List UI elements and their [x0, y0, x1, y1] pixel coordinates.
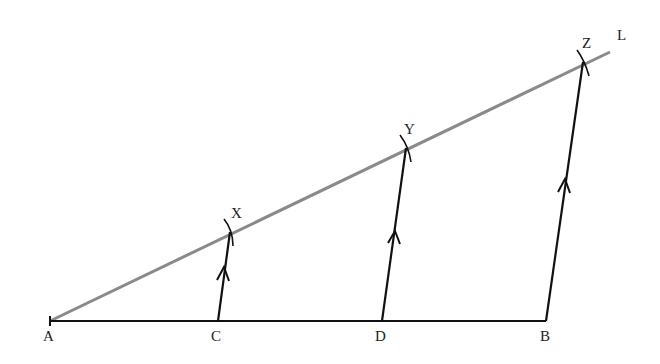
- label-b: B: [540, 328, 550, 344]
- label-c: C: [211, 328, 221, 344]
- ray-al: [50, 52, 610, 321]
- construction-diagram: A C D B X Y Z L: [0, 0, 660, 364]
- segment-bz: [546, 62, 583, 321]
- label-z: Z: [582, 35, 591, 51]
- label-d: D: [375, 328, 386, 344]
- label-l: L: [617, 27, 626, 43]
- label-y: Y: [404, 121, 415, 137]
- label-a: A: [43, 328, 54, 344]
- label-x: X: [231, 205, 242, 221]
